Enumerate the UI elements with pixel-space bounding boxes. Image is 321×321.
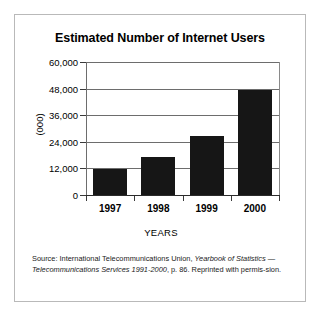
- source-note: Source: International Telecommunications…: [32, 253, 294, 275]
- y-axis-tick-label: 24,000: [49, 136, 78, 147]
- x-axis-tick: [231, 196, 232, 201]
- source-note-line1-plain: Source: International Telecommunications…: [32, 254, 195, 263]
- x-axis-tick-label-1998: 1998: [147, 203, 169, 214]
- y-axis-tick: [80, 89, 86, 90]
- y-axis-tick-label: 48,000: [49, 83, 78, 94]
- x-axis-tick: [183, 196, 184, 201]
- y-axis-tick: [80, 142, 86, 143]
- source-note-line1-italic: Yearbook of Statistics: [195, 254, 266, 263]
- source-note-line3-plain: sion.: [265, 265, 281, 274]
- source-note-line2-plain: , p. 86. Reprinted with permis-: [167, 265, 266, 274]
- figure-frame: Estimated Number of Internet Users (000)…: [14, 14, 306, 302]
- y-axis-tick-label: 36,000: [49, 110, 78, 121]
- x-axis-tick: [134, 196, 135, 201]
- y-axis-tick: [80, 115, 86, 116]
- x-axis-tick-label-1997: 1997: [99, 203, 121, 214]
- y-axis-tick: [80, 168, 86, 169]
- y-axis-tick-label: 12,000: [49, 163, 78, 174]
- x-axis-tick: [86, 196, 87, 201]
- x-axis-title: YEARS: [15, 227, 307, 238]
- y-axis-tick-label: 60,000: [49, 57, 78, 68]
- x-axis-tick: [279, 196, 280, 201]
- bar-1997[interactable]: [93, 169, 127, 195]
- x-axis-tick-label-1999: 1999: [196, 203, 218, 214]
- y-axis-tick-label: 0: [73, 190, 78, 201]
- plot-area: [86, 62, 279, 195]
- x-axis-tick-label-2000: 2000: [244, 203, 266, 214]
- bar-2000[interactable]: [238, 90, 272, 195]
- gridline: [86, 62, 279, 63]
- plot-right-border: [279, 62, 280, 196]
- bar-1999[interactable]: [190, 136, 224, 195]
- bar-1998[interactable]: [141, 157, 175, 195]
- y-axis-tick: [80, 62, 86, 63]
